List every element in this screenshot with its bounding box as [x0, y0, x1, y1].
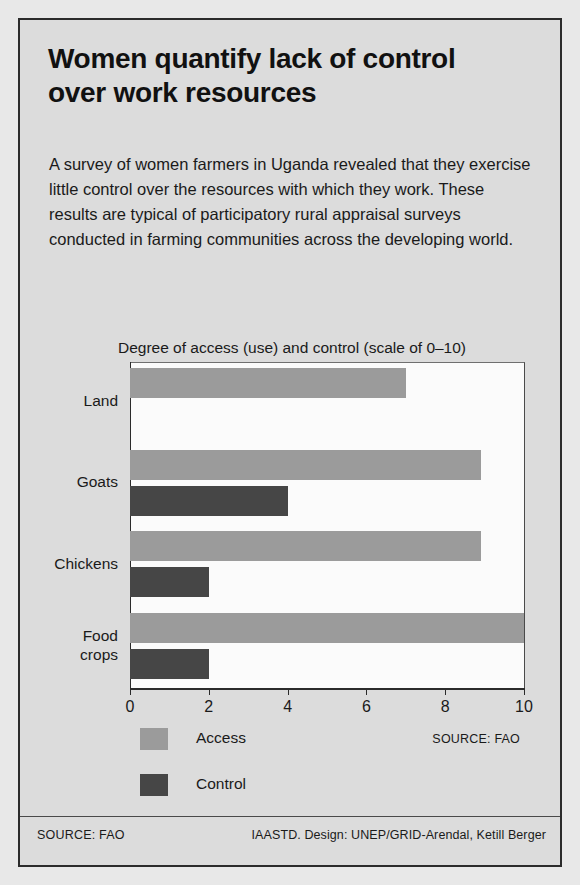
poster-card-inner: Women quantify lack of control over work… [20, 20, 560, 865]
bar-access [130, 613, 524, 643]
page-title: Women quantify lack of control over work… [48, 42, 518, 110]
x-tick-label: 8 [441, 698, 450, 716]
category-label: Goats [20, 473, 118, 491]
x-tick [366, 688, 367, 695]
x-tick-label: 0 [126, 698, 135, 716]
legend-swatch [140, 728, 168, 750]
x-tick [445, 688, 446, 695]
category-label: Chickens [20, 555, 118, 573]
legend-label: Access [196, 729, 246, 747]
legend-swatch [140, 774, 168, 796]
chart-title: Degree of access (use) and control (scal… [20, 339, 564, 357]
x-tick [209, 688, 210, 695]
standfirst-paragraph: A survey of women farmers in Uganda reve… [49, 152, 535, 252]
x-tick-label: 10 [515, 698, 533, 716]
bar-access [130, 450, 481, 480]
x-tick-label: 6 [362, 698, 371, 716]
bar-access [130, 531, 481, 561]
x-tick [130, 688, 131, 695]
legend-label: Control [196, 775, 246, 793]
x-axis-line [130, 688, 525, 690]
category-label: Land [20, 392, 118, 410]
x-tick-label: 2 [204, 698, 213, 716]
x-tick-label: 4 [283, 698, 292, 716]
bar-control [130, 649, 209, 679]
x-tick [524, 688, 525, 695]
infographic-poster: Women quantify lack of control over work… [0, 0, 580, 885]
footer-credit: IAASTD. Design: UNEP/GRID-Arendal, Ketil… [252, 828, 546, 842]
bar-control [130, 486, 288, 516]
bar-control [130, 567, 209, 597]
x-tick [288, 688, 289, 695]
chart-source-note: SOURCE: FAO [400, 732, 520, 746]
bar-access [130, 368, 406, 398]
category-label: Food crops [20, 627, 118, 664]
footer-source: SOURCE: FAO [37, 828, 125, 842]
footer-divider [20, 816, 560, 817]
poster-card: Women quantify lack of control over work… [18, 18, 562, 867]
